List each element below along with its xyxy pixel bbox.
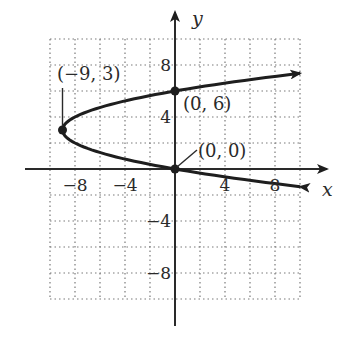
x-tick-label: −4 xyxy=(112,175,137,195)
x-axis-label: x xyxy=(322,178,333,200)
x-tick-label: −8 xyxy=(62,175,87,195)
y-axis-label: y xyxy=(191,7,203,29)
x-tick-label: 8 xyxy=(270,175,281,195)
parabola-chart: −8−44884−4−8 x y (−9, 3)(0, 6)(0, 0) xyxy=(0,0,343,346)
y-tick-label: 4 xyxy=(160,107,171,127)
point-label: (−9, 3) xyxy=(57,63,120,84)
point-marker xyxy=(171,87,180,96)
y-tick-label: 8 xyxy=(160,55,171,75)
y-tick-label: −8 xyxy=(146,263,171,283)
y-tick-label: −4 xyxy=(146,211,171,231)
point-label: (0, 0) xyxy=(198,140,246,161)
x-tick-label: 4 xyxy=(220,175,231,195)
point-label: (0, 6) xyxy=(183,93,231,114)
point-marker xyxy=(58,126,67,135)
labeled-points: (−9, 3)(0, 6)(0, 0) xyxy=(57,63,246,174)
leader-line xyxy=(177,150,197,167)
